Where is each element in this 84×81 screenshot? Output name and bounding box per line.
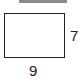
width-label: 9 <box>29 63 37 78</box>
height-label: 7 <box>70 28 78 43</box>
top-bar-divider <box>19 0 67 3</box>
rectangle-shape <box>4 13 65 58</box>
